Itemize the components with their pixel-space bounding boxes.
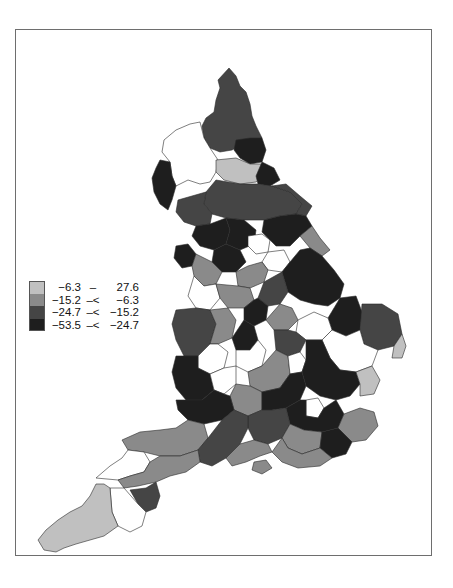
map-region-leics [266,304,298,330]
legend-swatch-dark [29,306,45,319]
legend-operator: – [81,281,105,293]
map-region-lincs [282,248,344,306]
legend-high-value: −6.3 [105,294,139,306]
legend-high-value: −15.2 [105,306,139,318]
legend-operator: –< [81,319,105,331]
legend-swatch-darkest [29,319,45,332]
legend-high-value: −24.7 [105,319,139,331]
legend-high-value: 27.6 [105,281,139,293]
map-region-cornwall [38,484,118,552]
map-region-wight [252,460,272,474]
map-region-essex-light [356,366,380,396]
legend-low-value: −15.2 [45,294,81,306]
legend-swatch-mid [29,294,45,307]
legend-low-value: −53.5 [45,319,81,331]
map-legend: −6.3 – 27.6 −15.2 –< −6.3 −24.7 –< −15.2… [29,281,149,331]
legend-row-class-2: −15.2 –< −6.3 [29,294,149,307]
legend-swatch-light [29,281,45,294]
legend-operator: –< [81,306,105,318]
legend-low-value: −6.3 [45,281,81,293]
legend-row-class-3: −24.7 –< −15.2 [29,306,149,319]
legend-row-class-1: −6.3 – 27.6 [29,281,149,294]
legend-operator: –< [81,294,105,306]
legend-row-class-4: −53.5 –< −24.7 [29,319,149,332]
legend-low-value: −24.7 [45,306,81,318]
